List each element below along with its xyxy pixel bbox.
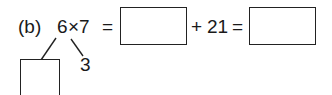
split-answer-box[interactable]: [20, 59, 60, 95]
split-three: 3: [80, 55, 91, 74]
left-branch-line: [41, 38, 56, 60]
